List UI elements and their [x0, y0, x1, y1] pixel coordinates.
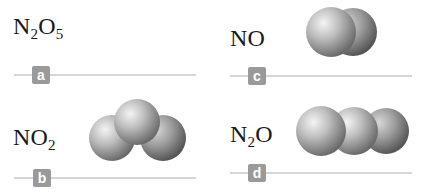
- linear-molecule-model: [294, 104, 414, 160]
- label-badge-c: c: [248, 67, 266, 85]
- label-badge-a: a: [32, 66, 50, 84]
- element-symbol: O: [255, 121, 273, 147]
- formula-no2: NO2: [13, 125, 56, 149]
- formula-n2o5: N2O5: [13, 14, 64, 38]
- label-badge-b: b: [33, 169, 51, 187]
- formula-n2o: N2O: [230, 122, 273, 146]
- diatomic-molecule-model: [303, 6, 383, 62]
- formula-no: NO: [230, 26, 265, 50]
- element-symbol: N: [13, 13, 31, 39]
- label-badge-d: d: [248, 164, 266, 182]
- bent-molecule-model: [88, 98, 188, 168]
- element-symbol: NO: [13, 124, 48, 150]
- subscript: 5: [56, 26, 64, 42]
- element-symbol: O: [38, 13, 56, 39]
- element-symbol: N: [230, 121, 248, 147]
- subscript: 2: [48, 137, 56, 153]
- element-symbol: NO: [230, 25, 265, 51]
